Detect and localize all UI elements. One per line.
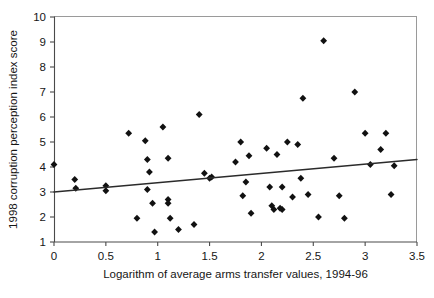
data-point (289, 194, 296, 201)
data-point (196, 111, 203, 118)
y-tick-label: 10 (33, 11, 46, 23)
x-tick-label: 2 (258, 250, 264, 262)
data-point (362, 130, 369, 137)
data-point (274, 151, 281, 158)
data-point (191, 221, 198, 228)
plot-frame (54, 17, 417, 243)
x-tick-label: 1.5 (202, 250, 218, 262)
data-point (146, 169, 153, 176)
x-axis-ticks (54, 242, 417, 246)
y-tick-label: 4 (40, 161, 47, 173)
y-tick-label: 8 (40, 61, 46, 73)
data-point (263, 145, 270, 152)
data-point (239, 192, 246, 199)
data-point (336, 192, 343, 199)
data-point (144, 186, 151, 193)
x-tick-label: 0 (51, 250, 57, 262)
x-axis-tick-labels: 00.511.522.533.5 (51, 250, 425, 262)
data-point (167, 215, 174, 222)
data-point (144, 156, 151, 163)
x-tick-label: 2.5 (305, 250, 321, 262)
data-point (331, 155, 338, 162)
data-point (165, 200, 172, 207)
data-point (341, 215, 348, 222)
data-point (300, 95, 307, 102)
data-point (248, 210, 255, 217)
data-point (351, 89, 358, 96)
data-point (315, 214, 322, 221)
y-tick-label: 5 (40, 136, 46, 148)
y-axis-ticks (50, 17, 54, 242)
data-point (320, 37, 327, 44)
data-point (388, 191, 395, 198)
data-point (279, 184, 286, 191)
y-tick-label: 9 (40, 36, 46, 48)
data-point (294, 141, 301, 148)
data-point (242, 179, 249, 186)
data-point (382, 130, 389, 137)
data-point (232, 159, 239, 166)
data-point (149, 200, 156, 207)
y-tick-label: 1 (40, 236, 46, 248)
y-tick-label: 6 (40, 111, 46, 123)
data-point (71, 176, 78, 183)
data-point (165, 155, 172, 162)
data-point (134, 215, 141, 222)
x-tick-label: 3 (362, 250, 368, 262)
data-point-markers (51, 37, 398, 235)
data-point (102, 187, 109, 194)
y-tick-label: 2 (40, 211, 46, 223)
y-tick-label: 3 (40, 186, 46, 198)
scatter-chart: 12345678910 00.511.522.533.5 Logarithm o… (0, 0, 434, 298)
y-axis-title: 1998 corruption perception index score (7, 30, 19, 229)
x-tick-label: 3.5 (409, 250, 425, 262)
data-point (151, 229, 158, 236)
data-point (305, 191, 312, 198)
chart-canvas: 12345678910 00.511.522.533.5 Logarithm o… (0, 0, 434, 298)
y-tick-label: 7 (40, 86, 46, 98)
data-point (175, 226, 182, 233)
data-point (284, 139, 291, 146)
data-point (266, 184, 273, 191)
data-point (246, 152, 253, 159)
data-point (391, 162, 398, 169)
x-axis-title: Logarithm of average arms transfer value… (103, 268, 368, 280)
data-point (297, 175, 304, 182)
data-point (201, 170, 208, 177)
data-point (377, 146, 384, 153)
x-tick-label: 1 (155, 250, 161, 262)
y-axis-tick-labels: 12345678910 (33, 11, 46, 248)
data-point (237, 139, 244, 146)
data-point (142, 137, 149, 144)
data-point (125, 130, 132, 137)
x-tick-label: 0.5 (98, 250, 114, 262)
data-point (160, 124, 167, 131)
